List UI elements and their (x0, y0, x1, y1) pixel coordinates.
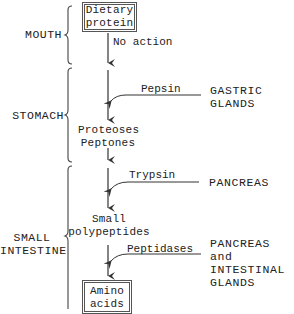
arrow-pepsin (111, 95, 201, 101)
label-peptidases: Peptidases (127, 243, 193, 255)
region-label-small-intestine: SMALL INTESTINE (0, 231, 64, 257)
node-dietary-protein-line1: Dietary (86, 4, 134, 17)
region-label-stomach: STOMACH (2, 109, 64, 122)
node-small-polypeptides: Small polypeptides (68, 213, 150, 239)
brace-mouth (65, 6, 72, 64)
region-label-mouth: MOUTH (4, 28, 62, 41)
label-pancreas: PANCREAS (209, 176, 269, 189)
label-gastric-glands: GASTRIC GLANDS (210, 84, 263, 110)
brace-stomach (65, 68, 72, 162)
region-label-stomach-text: STOMACH (12, 109, 64, 122)
label-no-action: No action (113, 36, 172, 48)
region-label-small-intestine-line2: INTESTINE (0, 244, 64, 257)
node-polypeptides-line: polypeptides (68, 226, 150, 239)
arrow-trypsin (111, 182, 199, 189)
node-small-line: Small (68, 213, 150, 226)
label-glands-line: GLANDS (210, 276, 294, 289)
region-label-mouth-text: MOUTH (25, 28, 62, 41)
node-proteoses-line: Proteoses (78, 124, 138, 137)
arrow-peptidases (111, 254, 201, 261)
label-pancreas-intestinal-glands: PANCREAS and INTESTINAL GLANDS (210, 237, 294, 289)
node-proteoses-peptones: Proteoses Peptones (78, 124, 138, 150)
label-pancreas-and-line: PANCREAS and (210, 237, 294, 263)
label-pepsin: Pepsin (141, 83, 181, 95)
label-gastric-glands-line2: GLANDS (210, 97, 263, 110)
label-trypsin: Trypsin (129, 169, 175, 181)
region-label-small-intestine-line1: SMALL (0, 231, 64, 244)
node-dietary-protein-line2: protein (86, 17, 134, 30)
label-intestinal-line: INTESTINAL (210, 263, 294, 276)
label-gastric-glands-line1: GASTRIC (210, 84, 263, 97)
node-dietary-protein: Dietary protein (82, 2, 137, 32)
node-amino-acids: Amino acids (82, 280, 132, 314)
node-amino-acids-line2: acids (90, 298, 124, 311)
node-peptones-line: Peptones (78, 137, 138, 150)
node-amino-acids-line1: Amino (90, 285, 124, 298)
